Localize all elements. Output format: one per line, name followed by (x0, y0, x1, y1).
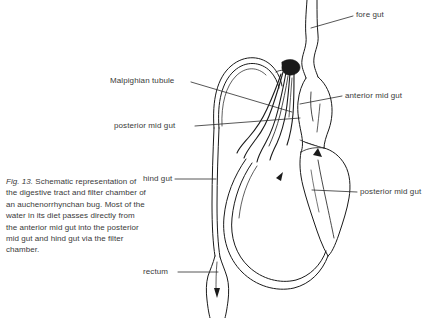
filter-chamber-junction (276, 60, 300, 76)
fore-gut-shape (302, 0, 318, 78)
leader-lines (175, 16, 357, 272)
label-malpighian-tubule: Malpighian tubule (110, 77, 174, 85)
flow-arrow-midgut (313, 148, 322, 157)
leader-anterior-mid-gut (300, 96, 342, 104)
caption-body: Schematic representation of the digestiv… (6, 177, 146, 254)
hind-gut-shape (212, 128, 328, 289)
label-fore-gut: fore gut (356, 11, 384, 19)
posterior-mid-gut-shape (300, 140, 350, 256)
label-posterior-mid-gut-right: posterior mid gut (360, 188, 421, 196)
anterior-mid-gut-shape (298, 77, 332, 152)
flow-arrow-hindgut (276, 172, 283, 181)
rectum-shape (206, 256, 228, 318)
filter-chamber-loop (214, 58, 282, 128)
figure-page: fore gut anterior mid gut posterior mid … (0, 0, 436, 318)
figure-caption: Fig. 13. Schematic representation of the… (6, 176, 146, 256)
caption-figure-number: Fig. 13. (6, 177, 33, 186)
label-posterior-mid-gut-left: posterior mid gut (114, 122, 175, 130)
label-anterior-mid-gut: anterior mid gut (345, 92, 402, 100)
label-hind-gut: hind gut (143, 175, 172, 183)
label-rectum: rectum (143, 268, 168, 276)
malpighian-tubules (237, 72, 294, 162)
digestive-tract-diagram (0, 0, 436, 318)
